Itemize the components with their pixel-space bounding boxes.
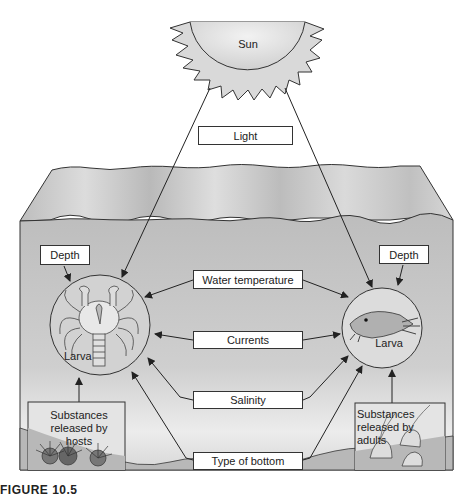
light-label: Light — [198, 126, 293, 145]
figure-caption: FIGURE 10.5 — [0, 483, 78, 497]
ocean-surface — [20, 165, 453, 224]
depth-label-right: Depth — [379, 245, 429, 264]
salinity-label: Salinity — [193, 391, 303, 409]
barnacle-larva-label: Larva — [372, 337, 406, 350]
crab-larva-label: Larva — [64, 350, 94, 363]
depth-label-left: Depth — [40, 245, 90, 265]
currents-label: Currents — [193, 331, 303, 349]
hosts-substances-label: Substances released by hosts — [48, 409, 110, 448]
sun-label: Sun — [228, 38, 268, 51]
adults-substances-label: Substances released by adults — [357, 408, 419, 447]
type-of-bottom-label: Type of bottom — [193, 452, 303, 470]
water-temperature-label: Water temperature — [193, 270, 303, 289]
sun-icon — [170, 22, 324, 100]
